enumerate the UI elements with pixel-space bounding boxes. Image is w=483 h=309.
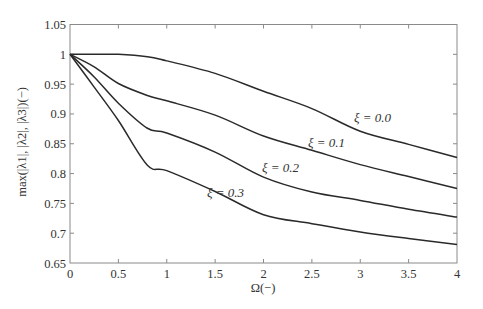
y-tick-label: 1.05 [44, 18, 66, 32]
x-tick-label: 1.5 [207, 267, 223, 281]
x-tick-label: 2 [260, 267, 266, 281]
y-tick-label: 0.7 [50, 227, 66, 241]
series-label-0: ξ = 0.0 [354, 110, 392, 125]
y-tick-label: 0.75 [44, 197, 66, 211]
data-curves [70, 54, 457, 244]
x-tick-label: 3 [357, 267, 363, 281]
y-axis-label: max(|λ1|, |λ2|, |λ3|)(−) [15, 87, 29, 197]
series-label-2: ξ = 0.2 [262, 160, 300, 175]
chart-container: 00.511.522.533.540.650.70.750.80.850.90.… [0, 0, 483, 309]
x-tick-label: 2.5 [304, 267, 320, 281]
y-tick-label: 0.8 [50, 167, 66, 181]
series-line-3 [70, 54, 457, 244]
line-chart: 00.511.522.533.540.650.70.750.80.850.90.… [0, 0, 483, 309]
series-label-1: ξ = 0.1 [308, 135, 345, 150]
series-line-0 [70, 54, 457, 157]
series-label-3: ξ = 0.3 [207, 185, 245, 200]
x-tick-label: 0 [67, 267, 73, 281]
y-tick-label: 1 [60, 48, 66, 62]
y-tick-label: 0.95 [44, 78, 66, 92]
y-tick-label: 0.9 [50, 107, 66, 121]
x-tick-label: 4 [454, 267, 461, 281]
plot-axes [70, 25, 457, 264]
plot-frame [70, 25, 457, 264]
y-tick-label: 0.65 [44, 257, 66, 271]
x-tick-label: 0.5 [111, 267, 127, 281]
axis-ticks: 00.511.522.533.540.650.70.750.80.850.90.… [44, 18, 461, 281]
x-tick-label: 3.5 [401, 267, 417, 281]
y-tick-label: 0.85 [44, 137, 66, 151]
x-axis-label: Ω(−) [251, 281, 276, 295]
x-tick-label: 1 [164, 267, 170, 281]
